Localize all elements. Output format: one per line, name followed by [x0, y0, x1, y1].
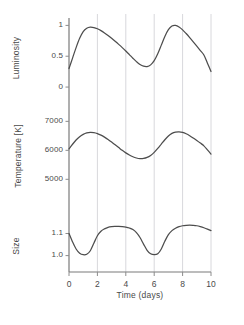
x-tick-label-4: 8 [168, 279, 198, 289]
x-tick-label-3: 6 [139, 279, 169, 289]
stellar-pulsation-figure: Luminosity Temperature [K] Size Time (da… [0, 0, 244, 325]
y-tick-label-luminosity-2: 1 [0, 20, 63, 29]
x-tick-label-5: 10 [196, 279, 226, 289]
y-tick-label-luminosity-1: 0.5 [0, 51, 63, 60]
gridlines-group [97, 14, 211, 272]
x-tick-label-2: 4 [111, 279, 141, 289]
x-tick-label-1: 2 [82, 279, 112, 289]
x-axis-label: Time (days) [69, 290, 211, 300]
y-tick-label-size-0: 1.0 [0, 250, 63, 259]
data-curves-group [69, 25, 211, 255]
axis-spines-group [69, 18, 211, 272]
plot-canvas [0, 0, 244, 325]
y-tick-label-size-1: 1.1 [0, 228, 63, 237]
y-tick-label-temperature-2: 7000 [0, 116, 63, 125]
curve-size [69, 225, 211, 255]
y-tick-label-temperature-1: 6000 [0, 145, 63, 154]
curve-temperature [69, 132, 211, 159]
curve-luminosity [69, 25, 211, 71]
y-tick-label-temperature-0: 5000 [0, 174, 63, 183]
y-tick-label-luminosity-0: 0 [0, 82, 63, 91]
x-tick-label-0: 0 [54, 279, 84, 289]
